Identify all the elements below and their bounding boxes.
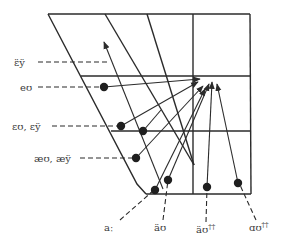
dot-eu-ey	[117, 122, 125, 130]
label-a-umlaut-u: äʊ	[154, 222, 166, 233]
leader-a-umlaut-u	[163, 180, 168, 220]
dot-eu	[100, 83, 108, 91]
slant-line-2	[147, 14, 194, 165]
label-alpha-u-sup: ††	[262, 221, 270, 229]
label-eey: ɛ̈ÿ	[14, 57, 25, 68]
arrow-a-long	[155, 89, 205, 190]
bottom-labels: aː äʊ ӓʊ†† ɑʊ††	[104, 221, 269, 235]
label-a-long: aː	[104, 222, 113, 233]
arrow-a-double-u	[207, 82, 212, 187]
label-a-double-u: ӓʊ††	[196, 223, 216, 235]
label-eu: eʊ	[20, 82, 32, 93]
arrow-alpha-u	[217, 84, 238, 183]
dot-a-long	[151, 186, 159, 194]
dot-a-double-u	[203, 183, 211, 191]
label-alpha-u: ɑʊ††	[249, 221, 269, 233]
dot-aeu-aey	[132, 154, 140, 162]
leader-alpha-u	[240, 185, 256, 220]
label-eu-ey: ɛʊ, ɛÿ	[12, 121, 41, 132]
label-alpha-u-base: ɑʊ	[249, 222, 262, 233]
right-edge	[250, 14, 251, 194]
arrow-eu	[104, 79, 200, 87]
slant-line-1	[105, 14, 194, 165]
arrow-eey	[104, 42, 163, 189]
vowel-quadrilateral	[48, 14, 251, 194]
label-a-double-u-sup: ††	[208, 223, 216, 231]
label-aeu-aey: æʊ, æÿ	[34, 153, 71, 164]
dot-eu-ey-2	[139, 127, 147, 135]
left-labels: ɛ̈ÿ eʊ ɛʊ, ɛÿ æʊ, æÿ	[12, 57, 71, 164]
trajectories	[104, 42, 238, 190]
vowel-diagram: ɛ̈ÿ eʊ ɛʊ, ɛÿ æʊ, æÿ aː äʊ ӓʊ†† ɑʊ††	[0, 0, 288, 242]
left-edge	[48, 14, 146, 194]
label-a-double-u-base: ӓʊ	[196, 224, 208, 235]
dot-alpha-u	[234, 179, 242, 187]
dot-a-umlaut-u	[164, 176, 172, 184]
leader-a-double-u	[206, 188, 207, 222]
